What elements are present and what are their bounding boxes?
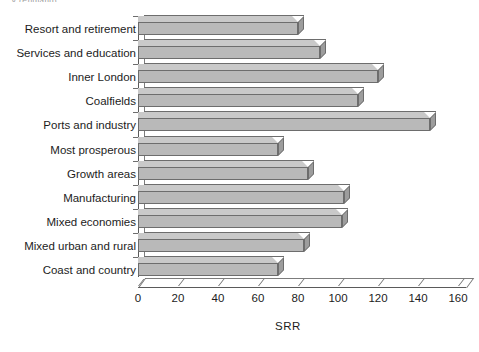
x-axis-tick-label: 100 xyxy=(323,292,353,304)
bar-top-face xyxy=(138,257,278,263)
x-axis-tick-label: 160 xyxy=(443,292,473,304)
bar-top-face xyxy=(138,233,304,239)
bar xyxy=(138,185,350,204)
plot-area: Resort and retirementServices and educat… xyxy=(0,0,479,352)
category-label: Ports and industry xyxy=(43,119,136,131)
bar-top-face xyxy=(138,161,308,167)
bar-side-face xyxy=(358,88,364,107)
bar-side-face xyxy=(342,209,348,228)
bar-top-face xyxy=(138,64,378,70)
x-axis-tick xyxy=(298,279,304,286)
bar-front-face xyxy=(138,191,344,204)
x-axis-tick-label: 40 xyxy=(203,292,233,304)
bar-top-edge xyxy=(144,111,436,112)
bar-front-face xyxy=(138,118,430,131)
bar xyxy=(138,161,314,180)
x-axis-right-edge xyxy=(466,278,474,288)
category-label: Coast and country xyxy=(43,264,136,276)
x-axis-front-edge xyxy=(138,287,466,288)
bar-top-edge xyxy=(144,232,310,233)
x-axis-tick-label: 60 xyxy=(243,292,273,304)
chart-container: ...y (England) Resort and retirementServ… xyxy=(0,0,479,352)
bar-top-face xyxy=(138,112,430,118)
category-label: Manufacturing xyxy=(63,192,136,204)
bar-side-face xyxy=(378,64,384,83)
bar-top-face xyxy=(138,209,342,215)
bar-side-face xyxy=(304,233,310,252)
bar-front-face xyxy=(138,167,308,180)
bar xyxy=(138,88,364,107)
x-axis-tick xyxy=(378,279,384,286)
x-axis-tick xyxy=(258,279,264,286)
bar-top-face xyxy=(138,40,320,46)
x-axis-tick xyxy=(418,279,424,286)
bar-front-face xyxy=(138,94,358,107)
category-label: Coalfields xyxy=(86,95,137,107)
bar-top-edge xyxy=(144,256,284,257)
bar xyxy=(138,64,384,83)
bar-side-face xyxy=(320,40,326,59)
bar-side-face xyxy=(344,185,350,204)
bar xyxy=(138,233,310,252)
bar-top-edge xyxy=(144,87,364,88)
x-axis-tick xyxy=(338,279,344,286)
x-axis-tick xyxy=(218,279,224,286)
bar xyxy=(138,137,284,156)
x-axis-tick xyxy=(138,279,144,286)
bar xyxy=(138,257,284,276)
bar-front-face xyxy=(138,263,278,276)
bar-top-edge xyxy=(144,136,284,137)
category-label: Most prosperous xyxy=(50,144,136,156)
x-axis-tick-label: 0 xyxy=(123,292,153,304)
x-axis-tick-label: 120 xyxy=(363,292,393,304)
bar-top-edge xyxy=(144,208,348,209)
category-label: Growth areas xyxy=(67,168,136,180)
category-label: Mixed economies xyxy=(47,216,136,228)
bar-top-edge xyxy=(144,160,314,161)
category-label: Inner London xyxy=(68,71,136,83)
x-axis-tick-label: 140 xyxy=(403,292,433,304)
bar-side-face xyxy=(278,257,284,276)
x-axis-title: SRR xyxy=(275,320,301,332)
bar xyxy=(138,40,326,59)
category-label: Resort and retirement xyxy=(25,23,136,35)
bar xyxy=(138,16,304,35)
bar-side-face xyxy=(430,112,436,131)
bar xyxy=(138,112,436,131)
x-axis-tick xyxy=(458,279,464,286)
x-axis-tick-label: 20 xyxy=(163,292,193,304)
bar-front-face xyxy=(138,46,320,59)
bar xyxy=(138,209,348,228)
category-label: Mixed urban and rural xyxy=(24,240,136,252)
bar-top-face xyxy=(138,88,358,94)
bar-side-face xyxy=(298,16,304,35)
x-axis-tick xyxy=(178,279,184,286)
bar-front-face xyxy=(138,70,378,83)
bar-top-edge xyxy=(144,39,326,40)
category-label: Services and education xyxy=(16,47,136,59)
bar-top-face xyxy=(138,185,344,191)
bar-side-face xyxy=(308,161,314,180)
bar-front-face xyxy=(138,143,278,156)
bar-side-face xyxy=(278,137,284,156)
bar-front-face xyxy=(138,239,304,252)
bar-front-face xyxy=(138,215,342,228)
x-axis-tick-label: 80 xyxy=(283,292,313,304)
bar-top-edge xyxy=(144,63,384,64)
bar-top-face xyxy=(138,16,298,22)
bar-front-face xyxy=(138,22,298,35)
bar-top-face xyxy=(138,137,278,143)
bar-top-edge xyxy=(144,184,350,185)
bar-top-edge xyxy=(144,15,304,16)
